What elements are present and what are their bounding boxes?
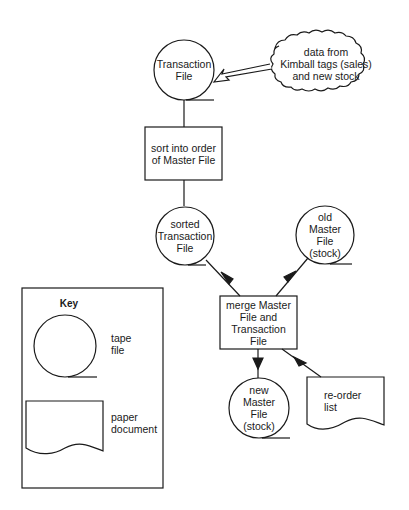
new-master-file-label: new Master File (stock) [229,384,289,432]
merge-process-label: merge Master File and Transaction File [220,299,297,347]
sort-process-label: sort into order of Master File [145,142,222,166]
transaction-file-label: Transaction File [150,58,218,82]
key-tape-file-label: tape file [111,332,161,356]
sorted-transaction-file-label: sorted Transaction File [152,218,218,254]
hollow-arrow-icon [214,64,272,82]
data-source-label: data from Kimball tags (sales) and new s… [268,46,384,82]
key-box [22,288,163,488]
key-title: Key [54,298,84,310]
old-master-file-label: old Master File (stock) [295,211,355,259]
key-paper-document-label: paper document [111,411,163,435]
key-paper-document-icon [26,401,103,454]
arrowhead-icon [253,358,263,369]
key-tape-file-icon [34,315,97,377]
arrowhead-icon [284,271,296,282]
reorder-list-label: re-order list [324,389,384,413]
